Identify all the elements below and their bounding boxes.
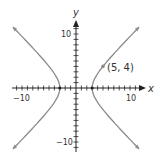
x-axis-arrow-icon [139,85,146,91]
y-tick-label-neg10: −10 [56,138,73,147]
labeled-point [101,65,105,69]
x-tick-label-pos10: 10 [126,94,136,103]
point-label: (5, 4) [107,62,134,73]
vertex-point [91,86,94,89]
y-tick-label-pos10: 10 [61,30,71,39]
vertex-point [58,86,61,89]
y-axis-arrow-icon [73,20,79,27]
y-axis-label: y [72,7,80,18]
x-tick-label-neg10: −10 [13,94,30,103]
hyperbola-plot: x y −10 10 10 −10 (5, 4) [0,0,162,153]
x-axis-label: x [147,83,154,94]
